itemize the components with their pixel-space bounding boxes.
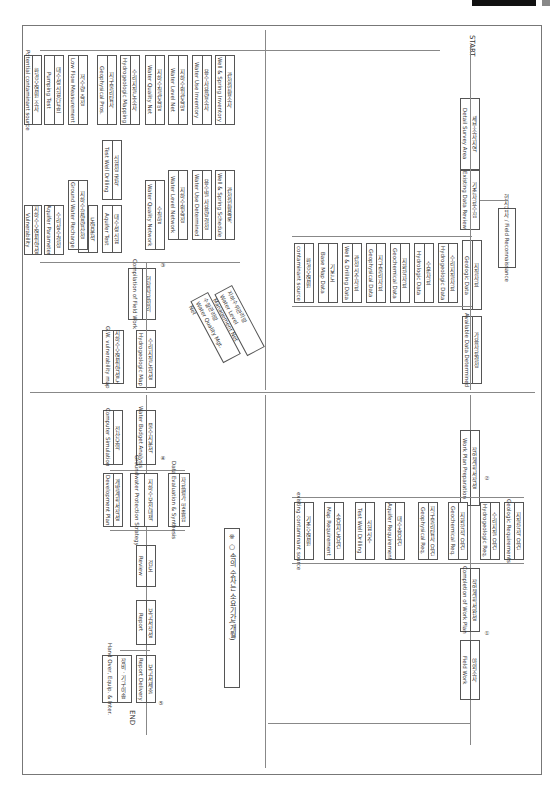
result-box[interactable]: 대수성시험Aquifer Test (102, 205, 122, 253)
data-item-box[interactable]: 지구물리자료Geophysical Data (366, 243, 386, 303)
box-ko: 관정현황목록 (225, 171, 235, 239)
survey-box[interactable]: 환경오염원 조사Potential contaminant source (24, 55, 42, 125)
recon-link (480, 200, 508, 201)
box-ko: 지구물리자료 (376, 244, 386, 302)
result-box[interactable]: 지하수위측정Water Level Network (168, 170, 188, 240)
box-en: Water Quality Network (146, 181, 155, 249)
box-en: Hydrologic Data (415, 244, 424, 302)
data-item-box[interactable]: 수리지질자료Hydrogeologic Data (438, 243, 458, 303)
data-item-box[interactable]: 관정시추자료Well & Drilling Data (342, 243, 362, 303)
geologic-data-box[interactable]: 지질자료 Geologic Data (462, 240, 482, 310)
survey-box[interactable]: 관정현황조사Well & Spring Inventory (215, 55, 235, 125)
box-en: Hydrogeologic Req. (481, 503, 490, 559)
field-work-box[interactable]: 야외조사Field Work (460, 640, 480, 700)
gw-vulnerability-map-box[interactable]: 지하수오염취약성도G.W. vulnerability map (102, 330, 124, 384)
box-ko: 지하수보전대책 (144, 474, 158, 526)
data-item-box[interactable]: 수문자료Hydrologic Data (414, 243, 434, 303)
report-delivery-box[interactable]: 보고서제출Report Delivery (136, 655, 156, 703)
box-en: Hydrogeologic Mapping (121, 56, 130, 124)
result-box[interactable]: 관정현황목록Well & Spring Schedule (215, 170, 235, 240)
data-item-box[interactable]: 지화학자료Geochemical Data (390, 243, 410, 303)
box-ko: 기본도 (328, 244, 338, 302)
result-box[interactable]: 용수별 사용량 결정Water Use Determined (192, 170, 212, 240)
box-en: Geologic Requirements (505, 503, 514, 559)
result-box[interactable]: 지하수함양량산정Ground Water Recharge (68, 180, 88, 250)
box-ko: 현장자료정리 (142, 269, 156, 319)
box-en: Geophysical Req. (419, 503, 428, 559)
result-box[interactable]: 수리상수결정Aquifer Parameter (44, 205, 64, 255)
box-en: Development Plan (104, 474, 113, 526)
box-ko: 지구물리탐사 요건 (428, 503, 438, 559)
evaluation-box[interactable]: 개발계획서작성Development Plan (103, 473, 123, 527)
box-ko: 소요지도요건 (334, 503, 344, 559)
box-ko: 지화학자료 (400, 244, 410, 302)
available-data-box[interactable]: 가용자료결정 Available Data Determined (462, 316, 482, 384)
box-ko: 지하수함양량산정 (78, 181, 88, 249)
survey-box[interactable]: 용수사용량조사Water Use Inventory (192, 55, 212, 125)
result-box[interactable]: 수질망Water Quality Network (145, 180, 165, 250)
box-en: Vulnerability (24, 206, 32, 254)
box-en: Hand Over, Equip. & Inter. (103, 656, 117, 702)
requirement-box[interactable]: 지구물리탐사 요건Geophysical Req. (418, 502, 438, 560)
box-en: Water Quality Net (146, 56, 155, 124)
box-en: Aquifer Test (103, 206, 112, 252)
box-en: Well & Spring Inventory (216, 56, 225, 124)
requirement-box[interactable]: 소요지도요건Map Requirement (324, 502, 344, 560)
completion-work-plan-box[interactable]: 작업계획서완성Completion of Work Plan (460, 568, 480, 632)
evaluation-box[interactable]: 지하수보전대책Groundwater Protection Strategy (130, 473, 158, 527)
work-plan-box[interactable]: 작업계획서작성Work Plan Preparation (460, 430, 480, 506)
requirement-box[interactable]: 지질학적 요건Geologic Requirements (504, 502, 524, 560)
box-en: Potential contaminant source (24, 56, 32, 124)
box-ko: 용수별 사용량 결정 (202, 171, 212, 239)
requirement-box[interactable]: 대수층요건Aquifer Requirement (385, 502, 405, 560)
box-ko: 대수층요건 (395, 503, 405, 559)
box-ko: 지구물리탐사 (107, 56, 117, 124)
box-en: Water Use Inventory (193, 56, 202, 124)
compilation-box[interactable]: 현장자료정리Compilation of Field Work (128, 268, 156, 320)
survey-box[interactable]: 지하수위관측망Water Level Net (168, 55, 188, 125)
box-ko: 작업계획서작성 (470, 431, 480, 505)
header-tag-edge (542, 0, 550, 6)
box-ko: 지질자료 (472, 241, 482, 309)
box-en: Well & Spring Schedule (216, 171, 225, 239)
requirement-box[interactable]: 시험시추Test Well Drilling (355, 502, 375, 560)
data-item-box[interactable]: 기본도Base Map Data (318, 243, 338, 303)
survey-box[interactable]: 저수량 측정Low Flow Measurement (68, 55, 88, 125)
duration-marker: ③ (160, 262, 166, 268)
evaluation-box[interactable]: 자료평가 및 종합Data Evaluation & Synthesis (168, 473, 190, 527)
survey-box[interactable]: 지하수질관측망Water Quality Net (145, 55, 165, 125)
box-ko: 자료평가 및 종합 (179, 474, 190, 526)
box-en: Field Work (461, 641, 470, 699)
field-recon-box[interactable]: 현지답사 / Field Reconnaissance (498, 208, 516, 268)
box-en: Compilation of Field Work (129, 269, 142, 319)
box-ko: 지하수오염취약성 (32, 206, 41, 254)
survey-bus-top (40, 50, 440, 51)
compile-line (146, 262, 147, 390)
survey-box[interactable]: 수리지질도조사Hydrogeologic Mapping (120, 55, 140, 125)
requirement-box[interactable]: 수리지질 요건Hydrogeologic Req. (480, 502, 500, 560)
duration-marker: ④ (160, 455, 166, 461)
legend-note: ※ ○ 속의 숫자는 소요기간(개월) (224, 528, 240, 688)
survey-box[interactable]: 대수성시험(단공)Pumping Test (44, 55, 64, 125)
duration-marker: ② (484, 475, 490, 481)
requirement-box[interactable]: 기존오염원existing contaminant source (294, 502, 314, 560)
report-box[interactable]: 보고서작성Report (136, 600, 156, 645)
computer-sim-box[interactable]: 전산모의Computer Simulation (103, 410, 123, 465)
survey-box[interactable]: 지구물리탐사Geophysical Pros. (97, 55, 117, 125)
box-ko: 수리상수결정 (54, 206, 64, 254)
box-en: Geochemical Req. (449, 503, 458, 559)
box-en: G.W. vulnerability map (103, 331, 113, 383)
requirement-box[interactable]: 지화학적 요건Geochemical Req. (448, 502, 468, 560)
review-box[interactable]: 검토Review (136, 545, 156, 587)
box-ko: 수문자료 (424, 244, 434, 302)
header-tag (472, 0, 536, 6)
result-box[interactable]: 지하수오염취약성Vulnerability (24, 205, 42, 255)
result-box[interactable]: 시험정 굴착Test Well Drilling (102, 140, 122, 200)
box-en: Aquifer Requirement (386, 503, 395, 559)
box-ko: 지하수위관측망 (178, 56, 188, 124)
hand-over-box[interactable]: 장비 · 기구이송Hand Over, Equip. & Inter. (102, 655, 132, 703)
box-en: Computer Simulation (104, 411, 113, 464)
data-item-box[interactable]: 환경오염원contaminant source (294, 243, 314, 303)
box-en: Groundwater Protection Strategy (131, 474, 144, 526)
req-bus-top (292, 497, 524, 498)
